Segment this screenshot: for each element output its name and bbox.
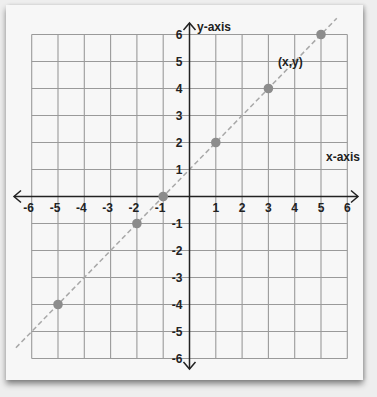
y-tick-label: -6 xyxy=(172,352,183,366)
y-tick-label: 6 xyxy=(176,28,183,42)
y-axis-label: y-axis xyxy=(197,20,231,34)
y-tick-label: 4 xyxy=(176,82,183,96)
x-tick-label: 6 xyxy=(344,201,351,215)
x-tick-label: 1 xyxy=(212,201,219,215)
y-tick-label: 5 xyxy=(176,55,183,69)
point-annotation: (x,y) xyxy=(278,55,303,69)
data-point xyxy=(53,300,63,310)
data-point xyxy=(316,30,326,40)
y-tick-label: -4 xyxy=(172,298,183,312)
x-tick-label: 4 xyxy=(291,201,298,215)
x-tick-label: -5 xyxy=(50,201,61,215)
data-point xyxy=(211,138,221,148)
data-point xyxy=(264,84,274,94)
x-tick-label: -4 xyxy=(76,201,87,215)
x-tick-label: -1 xyxy=(155,201,166,215)
x-tick-label: -6 xyxy=(23,201,34,215)
x-axis-label: x-axis xyxy=(326,150,360,164)
axes xyxy=(14,23,358,369)
y-tick-label: 1 xyxy=(176,163,183,177)
data-point xyxy=(132,219,142,229)
x-tick-label: 5 xyxy=(318,201,325,215)
y-tick-label: -5 xyxy=(172,325,183,339)
x-tick-label: 3 xyxy=(265,201,272,215)
y-tick-label: 2 xyxy=(176,136,183,150)
y-tick-label: -2 xyxy=(172,244,183,258)
coordinate-plane: -6-5-4-3-2-1123456654321-1-2-3-4-5-6 x-a… xyxy=(0,0,377,397)
y-tick-label: 3 xyxy=(176,109,183,123)
y-tick-label: -3 xyxy=(172,271,183,285)
x-tick-label: -3 xyxy=(102,201,113,215)
x-tick-label: -2 xyxy=(129,201,140,215)
x-tick-label: 2 xyxy=(239,201,246,215)
y-tick-label: -1 xyxy=(172,217,183,231)
